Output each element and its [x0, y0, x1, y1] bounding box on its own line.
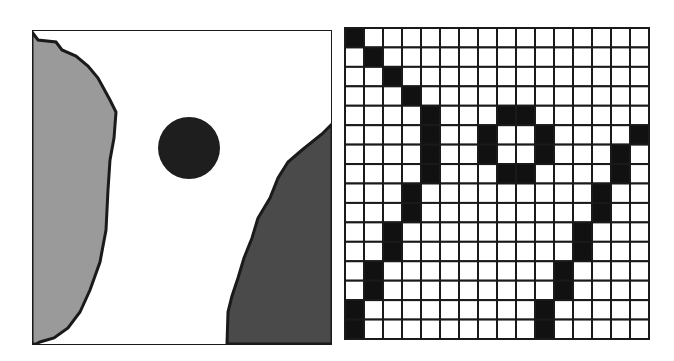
grid-cell-free — [573, 106, 592, 125]
grid-cell-free — [440, 242, 459, 261]
grid-cell-free — [459, 300, 478, 319]
grid-cell-free — [478, 184, 497, 203]
grid-cell-free — [573, 281, 592, 300]
grid-cell-free — [345, 281, 364, 300]
grid-cell-free — [402, 67, 421, 86]
grid-cell-free — [554, 300, 573, 319]
grid-cell-free — [611, 261, 630, 280]
grid-cell-occupied — [345, 28, 364, 47]
grid-cell-free — [497, 320, 516, 339]
grid-cell-free — [440, 164, 459, 183]
grid-cell-occupied — [402, 203, 421, 222]
grid-cell-occupied — [478, 125, 497, 144]
grid-cell-free — [535, 281, 554, 300]
grid-cell-free — [402, 145, 421, 164]
grid-cell-free — [478, 164, 497, 183]
grid-cell-free — [630, 203, 649, 222]
grid-cell-free — [535, 242, 554, 261]
grid-cell-occupied — [383, 222, 402, 241]
grid-cell-free — [611, 106, 630, 125]
grid-cell-free — [497, 67, 516, 86]
grid-cell-free — [345, 106, 364, 125]
grid-cell-free — [611, 184, 630, 203]
grid-cell-occupied — [592, 184, 611, 203]
grid-cell-free — [516, 261, 535, 280]
grid-cell-free — [459, 164, 478, 183]
grid-cell-free — [478, 203, 497, 222]
grid-cell-free — [383, 47, 402, 66]
grid-cell-free — [592, 222, 611, 241]
grid-cell-free — [383, 164, 402, 183]
grid-cell-free — [516, 300, 535, 319]
grid-cell-free — [440, 47, 459, 66]
grid-cell-free — [554, 145, 573, 164]
grid-cell-free — [440, 320, 459, 339]
grid-cell-free — [402, 320, 421, 339]
grid-cell-free — [516, 320, 535, 339]
grid-cell-free — [535, 86, 554, 105]
grid-cell-free — [554, 67, 573, 86]
grid-cell-free — [573, 145, 592, 164]
grid-cell-free — [497, 86, 516, 105]
grid-cell-free — [592, 164, 611, 183]
grid-cell-free — [383, 203, 402, 222]
grid-cell-free — [440, 67, 459, 86]
grid-cell-free — [440, 28, 459, 47]
grid-cell-free — [402, 261, 421, 280]
grid-cell-free — [402, 281, 421, 300]
occupancy-grid — [344, 27, 650, 340]
grid-cell-free — [402, 164, 421, 183]
grid-cell-free — [345, 261, 364, 280]
grid-cell-free — [421, 28, 440, 47]
grid-cell-free — [592, 28, 611, 47]
grid-cell-free — [402, 28, 421, 47]
continuous-map — [32, 30, 332, 345]
grid-cell-free — [345, 86, 364, 105]
grid-cell-free — [364, 184, 383, 203]
grid-cell-occupied — [421, 106, 440, 125]
grid-cell-free — [383, 125, 402, 144]
grid-cell-free — [630, 320, 649, 339]
grid-cell-free — [630, 261, 649, 280]
grid-cell-free — [440, 125, 459, 144]
grid-cell-free — [630, 242, 649, 261]
grid-cell-free — [516, 67, 535, 86]
grid-cell-free — [459, 28, 478, 47]
grid-cell-free — [592, 261, 611, 280]
grid-cell-free — [383, 28, 402, 47]
grid-cell-free — [383, 281, 402, 300]
grid-cell-free — [364, 164, 383, 183]
grid-cell-free — [497, 222, 516, 241]
grid-cell-free — [345, 184, 364, 203]
grid-cell-free — [440, 106, 459, 125]
grid-cell-free — [459, 222, 478, 241]
grid-cell-free — [402, 242, 421, 261]
grid-cell-free — [516, 145, 535, 164]
grid-cell-free — [497, 203, 516, 222]
grid-cell-free — [364, 242, 383, 261]
grid-cell-free — [516, 222, 535, 241]
grid-cell-free — [497, 47, 516, 66]
grid-cell-free — [630, 300, 649, 319]
grid-cell-free — [592, 320, 611, 339]
grid-cell-free — [611, 222, 630, 241]
grid-cell-free — [421, 281, 440, 300]
grid-cell-free — [478, 47, 497, 66]
grid-cell-free — [364, 86, 383, 105]
grid-cell-free — [345, 47, 364, 66]
grid-cell-free — [497, 28, 516, 47]
grid-cell-free — [440, 300, 459, 319]
grid-cell-free — [630, 184, 649, 203]
grid-cell-free — [516, 47, 535, 66]
grid-cell-occupied — [554, 281, 573, 300]
continuous-map-panel — [32, 30, 332, 345]
grid-cell-occupied — [402, 86, 421, 105]
grid-cell-free — [402, 222, 421, 241]
grid-cell-free — [611, 86, 630, 105]
grid-cell-free — [459, 145, 478, 164]
grid-cell-free — [402, 47, 421, 66]
grid-cell-free — [402, 125, 421, 144]
grid-cell-occupied — [383, 242, 402, 261]
grid-cell-free — [459, 106, 478, 125]
grid-cell-free — [383, 184, 402, 203]
